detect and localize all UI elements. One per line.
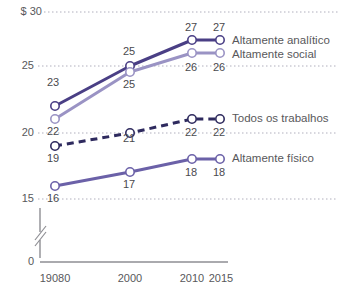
series-line-altamente-fisico [51,155,224,190]
data-label-social-2015: 26 [213,61,225,73]
legend-item-todos-os-trabalhos: Todos os trabalhos [232,112,329,124]
data-point [126,68,134,76]
data-label-social-2010: 26 [185,61,197,73]
series-line-altamente-analitico [51,36,224,110]
data-point [188,36,196,44]
data-point [51,142,59,150]
data-point [188,115,196,123]
data-label-fisico-2015: 18 [213,166,225,178]
data-point [51,102,59,110]
legend-item-altamente-social: Altamente social [232,48,316,60]
data-point [51,182,59,190]
legend-item-altamente-analitico: Altamente analítico [232,34,330,46]
data-label-todos-2000: 21 [123,132,135,144]
data-label-todos-2010: 22 [185,126,197,138]
x-tick-2015: 2015 [199,272,243,284]
data-label-todos-2015: 22 [213,126,225,138]
chart-container: $ 30 25 20 15 0 19080 2000 2010 2015 23 … [0,0,342,298]
data-label-analitico-2010: 27 [185,21,197,33]
x-tick-2000: 2000 [108,272,152,284]
data-label-todos-1980: 19 [47,152,59,164]
x-tick-1980: 19080 [32,272,78,284]
data-point [216,155,224,163]
y-tick-25: 25 [0,59,34,71]
data-label-analitico-2000: 25 [123,45,135,57]
data-label-fisico-1980: 16 [47,192,59,204]
y-tick-30: $ 30 [0,5,42,17]
data-point [216,49,224,57]
data-label-analitico-1980: 23 [47,76,59,88]
data-point [126,168,134,176]
data-label-social-2000: 25 [123,78,135,90]
series-line-altamente-social [51,49,224,123]
data-label-analitico-2015: 27 [213,21,225,33]
data-point [188,155,196,163]
data-point [216,115,224,123]
y-tick-0: 0 [0,255,34,267]
data-point [188,49,196,57]
data-label-fisico-2000: 17 [123,178,135,190]
y-tick-20: 20 [0,126,34,138]
data-label-social-1980: 22 [47,125,59,137]
y-axis-break [35,208,46,258]
y-tick-15: 15 [0,192,34,204]
data-label-fisico-2010: 18 [185,166,197,178]
legend-item-altamente-fisico: Altamente físico [232,152,314,164]
data-point [51,115,59,123]
data-point [216,36,224,44]
